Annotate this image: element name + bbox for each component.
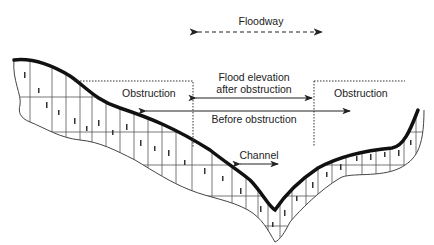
obstruction-left-label: Obstruction <box>122 88 176 99</box>
floodway-label: Floodway <box>239 16 284 27</box>
before-obstruction-label: Before obstruction <box>211 114 296 125</box>
channel-label: Channel <box>239 150 278 161</box>
obstruction-right-label: Obstruction <box>334 88 388 99</box>
flood-elevation-label-line1: Flood elevation <box>218 72 289 83</box>
floodway-cross-section-diagram: Floodway Obstruction Obstruction Flood e… <box>0 0 434 245</box>
flood-elevation-label-line2: after obstruction <box>216 84 291 95</box>
